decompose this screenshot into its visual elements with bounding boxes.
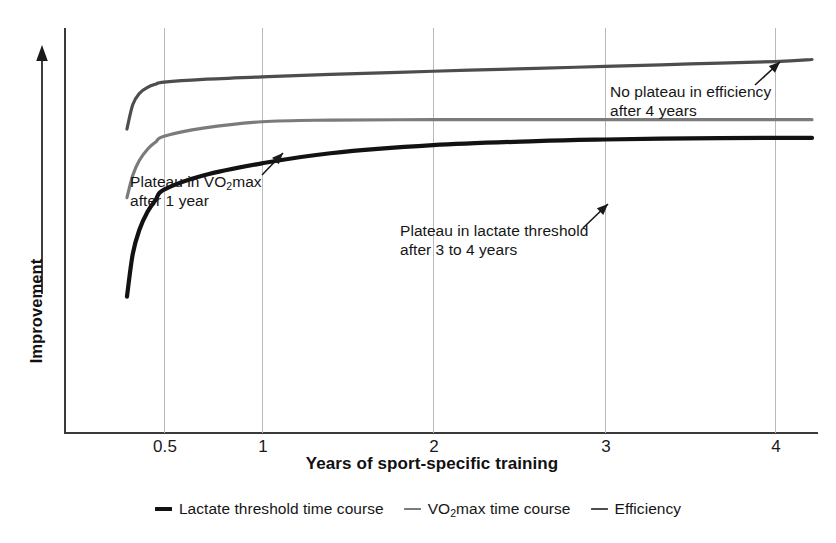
annotation-lactate: Plateau in lactate threshold after 3 to … (400, 221, 588, 259)
legend-item-efficiency[interactable]: Efficiency (591, 500, 682, 518)
legend-swatch-lactate-icon (155, 507, 172, 510)
annotation-vo2max-line2: after 1 year (130, 191, 262, 210)
legend-label-efficiency: Efficiency (615, 500, 682, 518)
legend-label-vo2max: VO2max time course (428, 500, 571, 518)
legend-swatch-efficiency-icon (591, 508, 608, 511)
legend-label-lactate: Lactate threshold time course (179, 500, 384, 518)
legend-item-vo2max[interactable]: VO2max time course (404, 500, 571, 518)
annotation-efficiency-line2: after 4 years (610, 101, 771, 120)
annotation-vo2max-line1: Plateau in VO2max (130, 173, 262, 190)
annotation-lactate-line1: Plateau in lactate threshold (400, 222, 588, 239)
annotation-vo2max: Plateau in VO2max after 1 year (130, 172, 262, 210)
legend-item-lactate[interactable]: Lactate threshold time course (155, 500, 384, 518)
series-line (127, 138, 812, 297)
annotation-efficiency: No plateau in efficiency after 4 years (610, 82, 771, 120)
annotation-lactate-line2: after 3 to 4 years (400, 240, 588, 259)
chart-figure: Improvement 0.5 1 2 3 4 Plateau in VO2ma… (0, 0, 836, 543)
annotation-efficiency-line1: No plateau in efficiency (610, 83, 771, 100)
chart-legend: Lactate threshold time course VO2max tim… (0, 500, 836, 518)
legend-swatch-vo2max-icon (404, 508, 421, 511)
x-axis-title: Years of sport-specific training (0, 454, 836, 474)
